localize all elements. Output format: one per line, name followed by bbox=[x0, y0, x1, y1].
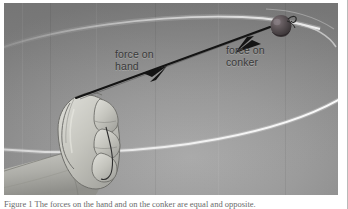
figure-caption-text: Figure 1 The forces on the hand and on t… bbox=[4, 200, 338, 209]
figure-canvas bbox=[4, 3, 338, 195]
figure-caption-strip: Figure 1 The forces on the hand and on t… bbox=[4, 200, 338, 209]
physics-figure-illustration: force on hand force on conker bbox=[4, 3, 338, 195]
figure-page: force on hand force on conker Figure 1 T… bbox=[0, 0, 348, 209]
